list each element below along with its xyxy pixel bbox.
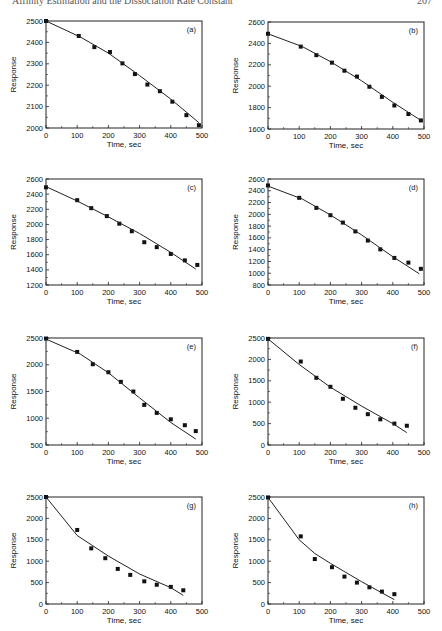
y-axis-label: Response <box>231 213 240 250</box>
y-tick-label: 1600 <box>26 250 43 259</box>
x-tick-label: 200 <box>102 288 115 297</box>
x-tick-label: 200 <box>102 131 115 140</box>
x-tick-label: 500 <box>196 131 209 140</box>
y-axis-label: Response <box>9 213 18 250</box>
y-axis-label: Response <box>231 532 240 569</box>
data-point <box>183 423 187 427</box>
x-tick-label: 400 <box>387 132 400 141</box>
x-tick-label: 100 <box>71 131 84 140</box>
data-point <box>266 32 270 36</box>
panel-label: (b) <box>409 26 419 35</box>
data-point <box>353 406 357 410</box>
panel-label: (a) <box>187 25 197 34</box>
x-tick-label: 400 <box>387 448 400 457</box>
panel-label: (h) <box>409 501 419 510</box>
y-tick-label: 1400 <box>248 245 265 254</box>
y-tick-label: 1800 <box>248 222 265 231</box>
plot-frame <box>46 179 202 285</box>
data-point <box>145 83 149 87</box>
x-tick-label: 400 <box>387 288 400 297</box>
data-point <box>75 528 79 532</box>
y-tick-label: 2200 <box>248 60 265 69</box>
y-tick-label: 2400 <box>26 190 43 199</box>
x-tick-label: 200 <box>324 607 337 616</box>
y-tick-label: 2500 <box>26 493 43 502</box>
fit-line <box>46 339 196 439</box>
y-axis-label: Response <box>9 532 18 569</box>
data-point <box>299 360 303 364</box>
x-tick-label: 500 <box>418 607 431 616</box>
x-tick-label: 200 <box>324 288 337 297</box>
y-tick-label: 2000 <box>248 210 265 219</box>
x-tick-label: 500 <box>418 132 431 141</box>
data-point <box>355 581 359 585</box>
chart-panel-a: 0100200300400500200021002200230024002500… <box>9 17 208 149</box>
x-tick-label: 0 <box>266 288 270 297</box>
y-tick-label: 2200 <box>248 198 265 207</box>
y-tick-label: 800 <box>252 281 265 290</box>
x-tick-label: 0 <box>266 132 270 141</box>
x-axis-label: Time, sec <box>329 457 363 466</box>
x-tick-label: 500 <box>418 288 431 297</box>
y-tick-label: 1000 <box>248 269 265 278</box>
x-tick-label: 300 <box>355 132 368 141</box>
plot-frame <box>46 21 202 128</box>
y-tick-label: 1000 <box>248 398 265 407</box>
y-tick-label: 1800 <box>26 235 43 244</box>
x-axis-label: Time, sec <box>107 616 141 625</box>
x-tick-label: 200 <box>102 607 115 616</box>
x-tick-label: 300 <box>355 607 368 616</box>
y-tick-label: 0 <box>39 600 43 609</box>
x-tick-label: 400 <box>165 131 178 140</box>
x-tick-label: 300 <box>133 448 146 457</box>
fit-line <box>46 21 199 123</box>
panel-label: (d) <box>409 183 419 192</box>
x-tick-label: 200 <box>324 132 337 141</box>
y-tick-label: 2400 <box>248 39 265 48</box>
y-tick-label: 1800 <box>248 103 265 112</box>
x-tick-label: 0 <box>44 607 48 616</box>
x-tick-label: 500 <box>196 607 209 616</box>
y-tick-label: 2000 <box>26 220 43 229</box>
data-point <box>299 534 303 538</box>
y-tick-label: 1500 <box>248 376 265 385</box>
chart-panel-g: 010020030040050005001000150020002500Time… <box>9 493 208 625</box>
y-tick-label: 1500 <box>26 387 43 396</box>
y-tick-label: 1200 <box>26 281 43 290</box>
chart-panel-b: 0100200300400500160018002000220024002600… <box>231 18 430 150</box>
x-tick-label: 400 <box>165 448 178 457</box>
plot-frame <box>268 497 424 604</box>
x-tick-label: 0 <box>266 448 270 457</box>
data-point <box>142 240 146 244</box>
chart-panel-d: 0100200300400500800100012001400160018002… <box>231 175 430 306</box>
y-tick-label: 0 <box>261 441 265 450</box>
x-tick-label: 0 <box>266 607 270 616</box>
panel-label: (g) <box>187 501 197 510</box>
x-axis-label: Time, sec <box>329 141 363 150</box>
data-point <box>341 397 345 401</box>
y-tick-label: 1400 <box>26 265 43 274</box>
plot-frame <box>46 338 202 445</box>
fit-line <box>46 187 196 270</box>
x-tick-label: 300 <box>355 288 368 297</box>
x-tick-label: 100 <box>293 132 306 141</box>
x-tick-label: 400 <box>165 288 178 297</box>
x-tick-label: 300 <box>355 448 368 457</box>
x-tick-label: 300 <box>133 607 146 616</box>
figure-grid: 0100200300400500200021002200230024002500… <box>0 0 442 631</box>
x-tick-label: 100 <box>71 288 84 297</box>
x-tick-label: 100 <box>71 448 84 457</box>
fit-line <box>268 34 421 121</box>
data-point <box>155 583 159 587</box>
x-tick-label: 0 <box>44 448 48 457</box>
y-tick-label: 1200 <box>248 257 265 266</box>
y-tick-label: 2300 <box>26 59 43 68</box>
y-tick-label: 500 <box>30 578 43 587</box>
y-tick-label: 2600 <box>26 175 43 184</box>
data-point <box>366 412 370 416</box>
y-tick-label: 500 <box>30 441 43 450</box>
y-tick-label: 2200 <box>26 81 43 90</box>
data-point <box>405 424 409 428</box>
y-tick-label: 2000 <box>26 360 43 369</box>
data-point <box>116 567 120 571</box>
